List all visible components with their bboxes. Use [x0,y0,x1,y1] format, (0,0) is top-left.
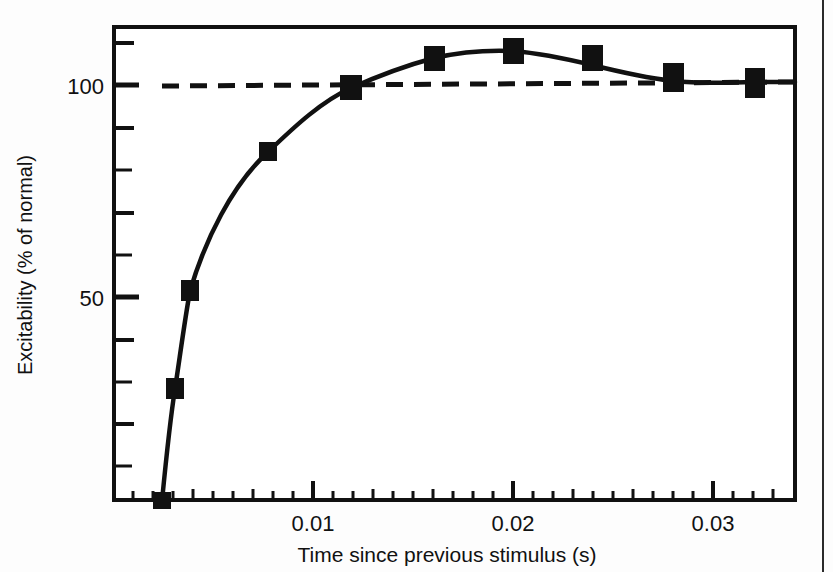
y-tick-label-50: 50 [80,286,104,311]
y-tick-label-100: 100 [67,74,104,99]
data-point-marker [424,46,445,71]
plot-border [114,27,795,500]
figure-panel: 100 50 0.01 0.02 0.03 Time since previou… [0,0,833,572]
data-point-marker [259,142,277,161]
x-axis-title: Time since previous stimulus (s) [297,543,596,566]
y-axis-title: Excitability (% of normal) [14,155,36,375]
data-point-marker [663,63,684,92]
chart-svg: 100 50 0.01 0.02 0.03 Time since previou… [0,0,833,572]
x-tick-label-0.02: 0.02 [492,511,535,536]
x-tick-label-0.01: 0.01 [292,511,335,536]
excitability-chart: 100 50 0.01 0.02 0.03 Time since previou… [0,0,833,572]
data-point-marker [340,75,362,100]
x-tick-label-0.03: 0.03 [692,511,735,536]
plot-frame [114,27,795,500]
data-point-marker [181,280,199,301]
data-point-marker [745,68,765,98]
data-point-marker [153,492,171,509]
data-point-marker [503,38,524,64]
data-point-marker [582,45,603,71]
data-point-marker [166,378,184,399]
